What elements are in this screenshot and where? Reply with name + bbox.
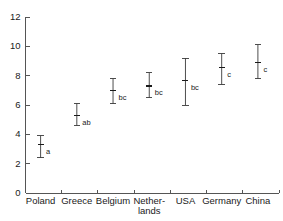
x-tick-label: Belgium — [96, 195, 130, 206]
x-tick-labels: PolandGreeceBelgiumNether-landsUSAGerman… — [26, 195, 271, 216]
x-tick-label: lands — [138, 205, 161, 216]
chart-figure: 024681012 aabbcbcbccc PolandGreeceBelgiu… — [0, 0, 283, 221]
errorbar-point: bc — [146, 73, 163, 98]
errorbar-point: bc — [110, 79, 127, 104]
errorbar-point: c — [255, 45, 268, 79]
significance-letter: ab — [82, 118, 90, 127]
y-tick-label: 12 — [10, 11, 21, 22]
errorbar-point: ab — [74, 104, 91, 127]
significance-letter: c — [227, 70, 231, 79]
x-tick-label: USA — [176, 195, 196, 206]
x-tick-label: China — [245, 195, 271, 206]
significance-letter: a — [46, 147, 51, 156]
y-tick-label: 10 — [10, 40, 21, 51]
errorbar-plot: 024681012 aabbcbcbccc PolandGreeceBelgiu… — [0, 0, 283, 221]
y-tick-label: 2 — [15, 158, 20, 169]
y-tick-label: 6 — [15, 99, 20, 110]
y-tick-label: 8 — [15, 70, 20, 81]
x-axis — [26, 190, 280, 194]
x-tick-label: Poland — [26, 195, 56, 206]
y-tick-label: 4 — [15, 128, 20, 139]
data-series: aabbcbcbccc — [37, 45, 267, 158]
significance-letter: bc — [191, 83, 199, 92]
errorbar-point: a — [37, 136, 51, 158]
significance-letter: bc — [119, 93, 127, 102]
significance-letter: c — [263, 65, 267, 74]
errorbar-point: c — [218, 54, 231, 85]
y-tick-label: 0 — [15, 187, 20, 198]
x-tick-label: Germany — [202, 195, 241, 206]
errorbar-point: bc — [182, 58, 199, 105]
x-tick-label: Greece — [61, 195, 92, 206]
significance-letter: bc — [155, 88, 163, 97]
y-axis: 024681012 — [10, 11, 30, 198]
